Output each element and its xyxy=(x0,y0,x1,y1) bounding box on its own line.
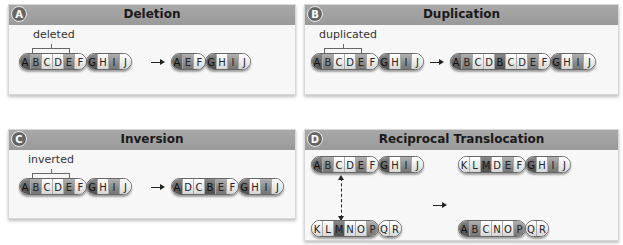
gene-bead: K xyxy=(459,157,470,173)
gene-bead: G xyxy=(206,54,217,70)
gene-bead: C xyxy=(473,54,484,70)
gene-bead: A xyxy=(451,54,462,70)
gene-bead: E xyxy=(183,54,194,70)
gene-bead: D xyxy=(345,54,356,70)
gene-bead: E xyxy=(503,157,514,173)
chromosome-after-top: KLMDEF GHIJ xyxy=(458,156,571,173)
chromosome-arm: GHIJ xyxy=(550,53,596,70)
chromosome-arm: ABCNOP xyxy=(458,220,526,237)
gene-bead: J xyxy=(412,54,423,70)
gene-bead: B xyxy=(323,54,334,70)
gene-bead: A xyxy=(172,179,183,195)
gene-bead: C xyxy=(334,54,345,70)
gene-bead: Q xyxy=(379,221,390,237)
gene-bead: J xyxy=(584,54,595,70)
annotation-label: inverted xyxy=(28,153,74,166)
panel-header: C Inversion xyxy=(9,130,295,150)
gene-bead: P xyxy=(367,221,378,237)
gene-bead: F xyxy=(367,54,378,70)
chromosome-arm: KLMDEF xyxy=(458,156,526,173)
gene-bead: F xyxy=(367,157,378,173)
gene-bead: G xyxy=(379,157,390,173)
gene-bead: C xyxy=(481,221,492,237)
chromosome-before-top: ABCDEF GHIJ xyxy=(311,156,424,173)
gene-bead: D xyxy=(484,54,495,70)
panel-inversion: C Inversion inverted ABCDEF GHIJ ADCBEF … xyxy=(8,129,296,219)
gene-bead: B xyxy=(205,179,216,195)
gene-bead: F xyxy=(75,179,86,195)
gene-bead: C xyxy=(334,157,345,173)
chromosome-arm: ABCDBCDEF xyxy=(450,53,551,70)
chromosome-arm: GHIJ xyxy=(525,156,571,173)
panel-title: Deletion xyxy=(9,7,295,21)
gene-bead: G xyxy=(87,54,98,70)
chromosome-after: AEF GHIJ xyxy=(171,53,251,70)
panel-header: A Deletion xyxy=(9,5,295,25)
gene-bead: Q xyxy=(526,221,537,237)
chromosome-arm: GHIJ xyxy=(238,178,284,195)
gene-bead: B xyxy=(31,179,42,195)
gene-bead: O xyxy=(356,221,367,237)
gene-bead: H xyxy=(250,179,261,195)
chromosome-arm: GHIJ xyxy=(205,53,251,70)
gene-bead: E xyxy=(528,54,539,70)
chromosome-arm: ABCDEF xyxy=(19,53,87,70)
gene-bead: I xyxy=(228,54,239,70)
gene-bead: H xyxy=(390,157,401,173)
panel-header: D Reciprocal Translocation xyxy=(305,130,618,150)
panel-deletion: A Deletion deleted ABCDEF GHIJ AEF GHIJ xyxy=(8,4,296,95)
gene-bead: G xyxy=(526,157,537,173)
gene-bead: D xyxy=(53,54,64,70)
chromosome-after: ADCBEF GHIJ xyxy=(171,178,284,195)
gene-bead: I xyxy=(401,54,412,70)
gene-bead: F xyxy=(194,54,205,70)
chromosome-after-bottom: ABCNOP QR xyxy=(458,220,549,237)
panel-title: Duplication xyxy=(305,7,618,21)
gene-bead: J xyxy=(272,179,283,195)
gene-bead: G xyxy=(239,179,250,195)
gene-bead: I xyxy=(401,157,412,173)
gene-bead: J xyxy=(239,54,250,70)
gene-bead: A xyxy=(459,221,470,237)
chromosome-before: ABCDEF GHIJ xyxy=(19,178,132,195)
gene-bead: N xyxy=(345,221,356,237)
gene-bead: F xyxy=(514,157,525,173)
gene-bead: B xyxy=(470,221,481,237)
panel-title: Inversion xyxy=(9,132,295,146)
gene-bead: E xyxy=(64,179,75,195)
chromosome-arm: GHIJ xyxy=(86,178,132,195)
gene-bead: N xyxy=(492,221,503,237)
gene-bead: P xyxy=(514,221,525,237)
gene-bead: B xyxy=(462,54,473,70)
gene-bead: I xyxy=(109,179,120,195)
gene-bead: D xyxy=(492,157,503,173)
chromosome-arm: QR xyxy=(378,220,402,237)
transform-arrow xyxy=(151,187,163,188)
gene-bead: D xyxy=(183,179,194,195)
gene-bead: J xyxy=(120,179,131,195)
chromosome-after: ABCDBCDEF GHIJ xyxy=(450,53,596,70)
gene-bead: R xyxy=(537,221,548,237)
gene-bead: E xyxy=(356,157,367,173)
gene-bead: F xyxy=(75,54,86,70)
gene-bead: M xyxy=(481,157,492,173)
transform-arrow xyxy=(151,62,163,63)
gene-bead: B xyxy=(31,54,42,70)
gene-bead: H xyxy=(98,54,109,70)
gene-bead: J xyxy=(412,157,423,173)
chromosome-arm: AEF xyxy=(171,53,206,70)
gene-bead: H xyxy=(98,179,109,195)
gene-bead: H xyxy=(537,157,548,173)
gene-bead: O xyxy=(503,221,514,237)
gene-bead: B xyxy=(495,54,506,70)
gene-bead: C xyxy=(42,179,53,195)
gene-bead: F xyxy=(539,54,550,70)
gene-bead: A xyxy=(20,54,31,70)
chromosome-before-bottom: KLMNOP QR xyxy=(311,220,402,237)
gene-bead: M xyxy=(334,221,345,237)
chromosome-before: ABCDEF GHIJ xyxy=(311,53,424,70)
chromosome-arm: GHIJ xyxy=(378,53,424,70)
chromosome-arm: ABCDEF xyxy=(311,156,379,173)
chromosome-arm: ABCDEF xyxy=(311,53,379,70)
gene-bead: A xyxy=(312,54,323,70)
